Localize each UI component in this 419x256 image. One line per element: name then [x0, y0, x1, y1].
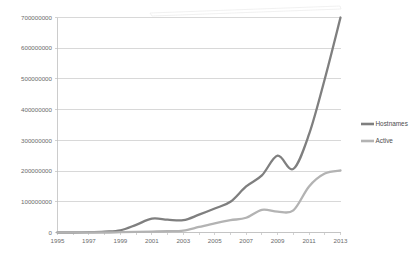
- x-tick-label: 2001: [145, 237, 159, 244]
- x-tick-label: 1999: [114, 237, 128, 244]
- y-tick-label: 400000000: [21, 106, 53, 113]
- chart-legend: HostnamesActive: [361, 120, 408, 144]
- background-artifact: [150, 6, 341, 16]
- axes: [58, 18, 341, 233]
- data-series-group: [58, 18, 341, 233]
- x-tick-label: 1997: [82, 237, 96, 244]
- y-tick-label: 200000000: [21, 167, 53, 174]
- series-line-hostnames: [58, 18, 341, 233]
- x-tick-label: 1995: [51, 237, 65, 244]
- axis-tickmarks: [55, 18, 341, 236]
- y-tick-label: 500000000: [21, 75, 53, 82]
- y-tick-label: 0: [49, 229, 53, 236]
- x-tick-label: 2013: [334, 237, 348, 244]
- legend-label-hostnames[interactable]: Hostnames: [376, 120, 408, 127]
- x-tick-label: 2003: [176, 237, 190, 244]
- legend-label-active[interactable]: Active: [376, 137, 394, 144]
- x-tick-label: 2009: [271, 237, 285, 244]
- y-tick-label: 600000000: [21, 44, 53, 51]
- chart-canvas: 0100000000200000000300000000400000000500…: [0, 0, 419, 256]
- y-tick-label: 700000000: [21, 14, 53, 21]
- x-tick-label: 2011: [302, 237, 316, 244]
- x-tick-label: 2007: [239, 237, 253, 244]
- gridlines: [58, 18, 341, 233]
- y-axis-tick-labels: 0100000000200000000300000000400000000500…: [21, 14, 53, 236]
- y-tick-label: 300000000: [21, 137, 53, 144]
- x-axis-tick-labels: 1995199719992001200320052007200920112013: [51, 237, 348, 244]
- x-tick-label: 2005: [208, 237, 222, 244]
- line-chart: 0100000000200000000300000000400000000500…: [0, 0, 419, 256]
- y-tick-label: 100000000: [21, 198, 53, 205]
